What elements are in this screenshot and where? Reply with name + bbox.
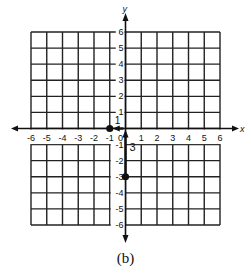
y-tick-label: -2 — [115, 156, 123, 166]
y-tick-label: 4 — [118, 59, 123, 69]
x-tick-label: 5 — [202, 133, 207, 143]
y-tick-label: 2 — [118, 91, 123, 101]
y-axis-arrow-up-icon — [123, 13, 129, 21]
plotted-point — [122, 173, 129, 180]
x-tick-label: 3 — [170, 133, 175, 143]
x-tick-label: 2 — [154, 133, 159, 143]
x-tick-label: -2 — [90, 133, 98, 143]
vector-label-horizontal: 1 — [115, 115, 121, 126]
x-tick-label: -4 — [58, 133, 66, 143]
y-tick-label: -4 — [115, 188, 123, 198]
y-tick-label: -1 — [115, 140, 123, 150]
y-axis-label: y — [122, 4, 128, 14]
x-tick-label: 1 — [139, 133, 144, 143]
y-tick-label: -6 — [115, 220, 123, 230]
y-tick-label: 6 — [118, 27, 123, 37]
y-axis-arrow-down-icon — [123, 235, 129, 243]
x-tick-label: -6 — [27, 133, 35, 143]
x-axis-arrow-right-icon — [232, 126, 239, 132]
coordinate-grid: xy -6-5-4-3-2-10123456654321-1-2-3-4-5-6… — [0, 0, 251, 277]
vector-label-vertical: 3 — [130, 141, 136, 153]
y-tick-label: 3 — [118, 75, 123, 85]
x-tick-label: -1 — [106, 133, 114, 143]
x-tick-label: -3 — [74, 133, 82, 143]
x-axis-label: x — [239, 124, 245, 134]
coordinate-plane-figure: xy -6-5-4-3-2-10123456654321-1-2-3-4-5-6… — [0, 0, 251, 277]
y-tick-label: 5 — [118, 43, 123, 53]
plotted-point — [106, 125, 113, 132]
y-tick-label: -5 — [115, 204, 123, 214]
x-tick-label: 6 — [217, 133, 222, 143]
x-tick-label: 4 — [186, 133, 191, 143]
x-axis-arrow-left-icon — [11, 126, 18, 132]
figure-caption: (b) — [0, 250, 251, 267]
x-tick-label: -5 — [43, 133, 51, 143]
